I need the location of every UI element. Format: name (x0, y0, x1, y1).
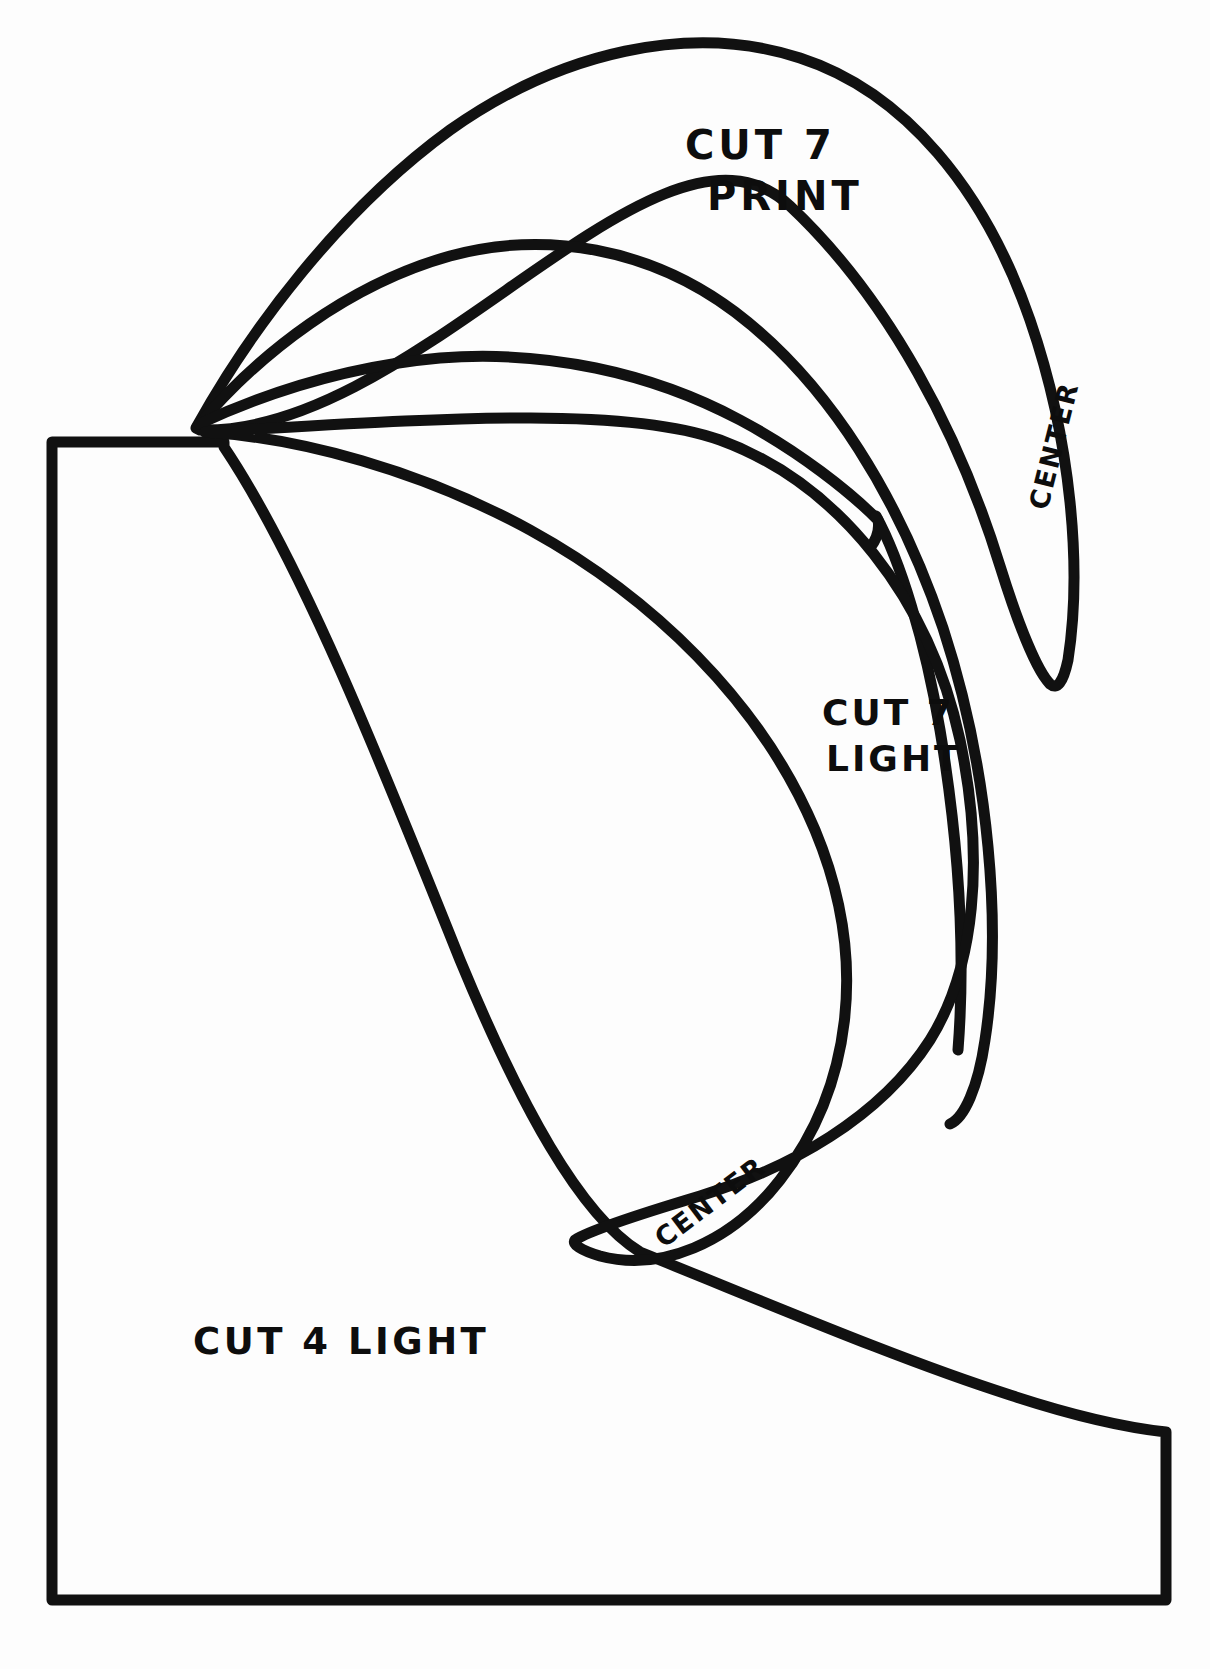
pattern-sheet: CUT 7 PRINT CUT 7 LIGHT CUT 4 LIGHT CENT… (0, 0, 1210, 1669)
cut-7-print-petal-outline (196, 43, 1074, 686)
cut-4-light-block-outline (52, 442, 1166, 1600)
pattern-drawing (0, 0, 1210, 1669)
label-cut-7-print-line1: CUT 7 (685, 120, 863, 171)
label-cut-4-light: CUT 4 LIGHT (193, 1318, 489, 1365)
label-cut-7-light-line1: CUT 7 (822, 690, 962, 736)
petal-inner-outline (199, 356, 879, 548)
label-cut-4-light-text: CUT 4 LIGHT (193, 1318, 489, 1365)
label-cut-7-print-line2: PRINT (707, 171, 863, 222)
label-cut-7-light: CUT 7 LIGHT (822, 690, 962, 782)
cut-7-light-petal-outline (205, 418, 973, 1261)
petal-inner-connector (876, 516, 961, 1050)
label-cut-7-print: CUT 7 PRINT (685, 120, 863, 222)
label-cut-7-light-line2: LIGHT (826, 736, 962, 782)
